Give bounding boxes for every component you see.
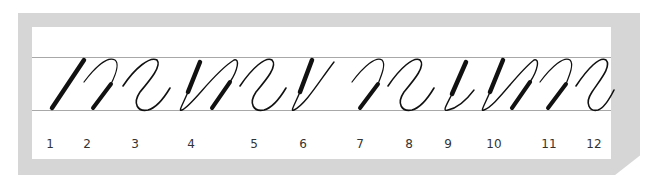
stroke-11-down — [548, 84, 566, 108]
stroke-6-loop — [292, 62, 334, 110]
step-label-3: 3 — [123, 137, 147, 151]
stroke-9-loop — [445, 90, 474, 110]
stroke-7-down — [360, 84, 378, 108]
step-label-5: 5 — [242, 137, 266, 151]
stroke-1 — [52, 60, 84, 108]
step-label-4: 4 — [179, 137, 203, 151]
step-label-11: 11 — [537, 137, 561, 151]
stroke-6-down — [300, 60, 312, 92]
stroke-4-thick — [212, 82, 230, 108]
step-label-7: 7 — [348, 137, 372, 151]
step-label-10: 10 — [482, 137, 506, 151]
step-label-12: 12 — [582, 137, 606, 151]
step-label-9: 9 — [436, 137, 460, 151]
stroke-4-down — [188, 62, 200, 92]
stroke-2-hair — [84, 59, 117, 84]
step-label-6: 6 — [291, 137, 315, 151]
stroke-12 — [576, 59, 614, 110]
stroke-7-hair — [352, 59, 384, 84]
calligraphy-strokes — [0, 0, 668, 180]
step-label-2: 2 — [75, 137, 99, 151]
step-label-1: 1 — [38, 137, 62, 151]
stroke-5 — [240, 59, 286, 110]
stroke-2-down — [93, 84, 111, 108]
stroke-11-hair — [540, 59, 572, 84]
stroke-3 — [123, 59, 170, 110]
stroke-8 — [388, 59, 434, 110]
stroke-9-down — [452, 62, 466, 94]
stroke-10-down — [490, 60, 503, 92]
step-label-8: 8 — [397, 137, 421, 151]
stroke-10-thick — [512, 82, 530, 108]
